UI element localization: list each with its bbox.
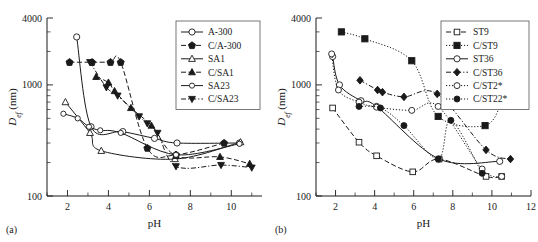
- legend-label-C-ST9: C/ST9: [473, 41, 498, 51]
- marker-square-filled-lg1: [454, 42, 460, 48]
- legend-label-ST9: ST9: [473, 27, 489, 37]
- x-tick-label-2: 2: [333, 201, 338, 212]
- marker-diamond-filled-3-3: [401, 93, 407, 101]
- marker-square-filled-1-2: [409, 58, 415, 64]
- marker-triangle-up-filled-3-1: [105, 79, 112, 85]
- marker-pentagon-filled-1-6: [221, 139, 228, 146]
- marker-square-open-lg0: [454, 29, 460, 35]
- legend-label-C-SA23: C/SA23: [208, 94, 239, 104]
- marker-circle-open-small-lg4: [189, 83, 194, 88]
- marker-circle-open-small-4-2: [86, 124, 91, 129]
- marker-triangle-up-open-2-0: [62, 99, 69, 105]
- figure-container: 10010004000246810pHDef (nm)A-300C/A-300S…: [0, 0, 538, 242]
- legend-label-C-ST36: C/ST36: [473, 68, 503, 78]
- y-tick-label-4000: 4000: [22, 13, 42, 24]
- y-tick-label-1000: 1000: [22, 79, 42, 90]
- marker-circle-open-gray-lg4: [454, 83, 460, 89]
- legend-label-C-A-300: C/A-300: [208, 41, 242, 51]
- marker-circle-filled-5-1: [378, 105, 384, 111]
- x-tick-label-4: 4: [106, 201, 111, 212]
- y-axis-title-symbol: D: [6, 118, 18, 127]
- panel-label: (b): [275, 224, 287, 236]
- x-tick-label-8: 8: [450, 201, 455, 212]
- legend-label-SA23: SA23: [208, 81, 230, 91]
- panel-label: (a): [6, 224, 17, 236]
- x-tick-label-6: 6: [147, 201, 152, 212]
- marker-diamond-filled-3-6: [507, 155, 513, 163]
- x-axis-title: pH: [148, 217, 162, 229]
- marker-circle-filled-5-4: [448, 117, 454, 123]
- marker-triangle-up-filled-3-0: [93, 73, 100, 79]
- marker-diamond-filled-3-4: [434, 90, 440, 98]
- legend-label-A-300: A-300: [208, 27, 233, 37]
- marker-circle-filled-lg5: [454, 96, 460, 102]
- marker-circle-open-0-4: [174, 140, 180, 146]
- marker-square-open-0-0: [330, 105, 336, 111]
- y-axis-title-unit: (nm): [275, 88, 288, 112]
- marker-triangle-up-filled-3-3: [128, 104, 135, 110]
- marker-pentagon-filled-1-3: [117, 59, 124, 66]
- marker-circle-open-gray-4-7: [499, 173, 505, 179]
- marker-circle-open-small-4-0: [61, 111, 66, 116]
- x-tick-label-4: 4: [372, 201, 377, 212]
- legend-label-C-SA1: C/SA1: [208, 68, 234, 78]
- marker-square-filled-1-3: [435, 113, 441, 119]
- plot-b-svg: 1001000400024681012pHDef (nm)ST9C/ST9ST3…: [269, 0, 538, 242]
- marker-circle-open-gray-4-1: [335, 87, 341, 93]
- marker-square-filled-1-4: [482, 123, 488, 129]
- marker-circle-open-gray-4-4: [409, 107, 415, 113]
- marker-circle-filled-5-0: [356, 103, 362, 109]
- marker-circle-open-small-4-5: [173, 152, 178, 157]
- marker-triangle-up-filled-3-6: [217, 153, 224, 159]
- legend-label-C-ST22-: C/ST22*: [473, 94, 508, 104]
- plot-a-svg: 10010004000246810pHDef (nm)A-300C/A-300S…: [0, 0, 269, 242]
- x-tick-label-8: 8: [188, 201, 193, 212]
- legend-label-C-ST2-: C/ST2*: [473, 81, 503, 91]
- marker-square-open-0-3: [410, 169, 416, 175]
- marker-circle-open-small-4-4: [118, 130, 123, 135]
- marker-pentagon-filled-1-0: [66, 59, 73, 66]
- legend-label-SA1: SA1: [208, 54, 225, 64]
- legend-label-ST36: ST36: [473, 54, 494, 64]
- marker-circle-open-0-0: [74, 34, 80, 40]
- series-line-SA1: [65, 102, 240, 159]
- marker-square-open-0-1: [356, 139, 362, 145]
- marker-square-filled-1-0: [338, 29, 344, 35]
- marker-circle-filled-5-5: [479, 170, 485, 176]
- marker-circle-open-2-5: [497, 158, 503, 164]
- marker-triangle-down-filled-5-8: [248, 165, 255, 171]
- x-tick-label-6: 6: [411, 201, 416, 212]
- y-axis-title-text: Def (nm): [275, 88, 292, 127]
- x-tick-label-12: 12: [526, 201, 536, 212]
- x-tick-label-10: 10: [226, 201, 236, 212]
- y-axis-title-text: Def (nm): [6, 88, 23, 127]
- marker-circle-filled-5-3: [435, 156, 441, 162]
- x-tick-label-2: 2: [65, 201, 70, 212]
- y-tick-label-100: 100: [296, 191, 311, 202]
- x-tick-label-10: 10: [487, 201, 497, 212]
- marker-circle-open-gray-4-0: [329, 51, 335, 57]
- y-tick-label-4000: 4000: [291, 13, 311, 24]
- marker-diamond-filled-3-0: [357, 76, 363, 84]
- marker-circle-open-lg2: [454, 56, 460, 62]
- marker-square-filled-1-1: [362, 36, 368, 42]
- chart-panel-a: 10010004000246810pHDef (nm)A-300C/A-300S…: [0, 0, 269, 242]
- series-C-ST22-: [356, 103, 485, 176]
- marker-square-open-0-2: [374, 153, 380, 159]
- marker-circle-open-small-4-1: [75, 116, 80, 121]
- y-axis-title: Def (nm): [275, 88, 292, 127]
- x-axis-title: pH: [417, 217, 431, 229]
- y-tick-label-100: 100: [27, 191, 42, 202]
- marker-circle-open-gray-4-5: [435, 103, 441, 109]
- marker-circle-open-small-4-3: [98, 128, 103, 133]
- y-axis-title: Def (nm): [6, 88, 23, 127]
- marker-pentagon-filled-1-2: [107, 59, 114, 66]
- marker-circle-open-small-4-6: [237, 141, 242, 146]
- chart-panel-b: 1001000400024681012pHDef (nm)ST9C/ST9ST3…: [269, 0, 538, 242]
- marker-circle-open-0-3: [151, 135, 157, 141]
- y-axis-title-unit: (nm): [6, 88, 19, 112]
- marker-circle-filled-5-2: [401, 123, 407, 129]
- marker-circle-open-lg0: [189, 29, 195, 35]
- y-axis-title-symbol: D: [275, 118, 287, 127]
- y-tick-label-1000: 1000: [291, 79, 311, 90]
